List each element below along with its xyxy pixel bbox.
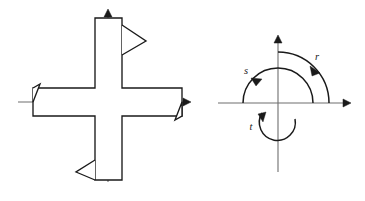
arc-label-s: s — [244, 65, 248, 76]
arc-r-curve — [278, 52, 329, 103]
arc-t: t — [250, 112, 296, 140]
arc-label-r: r — [315, 51, 320, 62]
right-panel-axes — [218, 35, 351, 172]
arc-s-arrowhead — [251, 78, 262, 86]
left-vertical-axis-arrowhead — [104, 9, 112, 17]
top-arm-barb — [118, 20, 152, 60]
left-panel-hatched-cross — [18, 9, 195, 190]
bottom-arm-barb-outline — [76, 160, 95, 180]
cross-section-outline — [33, 18, 182, 180]
right-horizontal-axis-arrowhead — [343, 99, 351, 107]
technical-figure: r s t — [0, 0, 365, 201]
arc-t-curve — [259, 113, 295, 140]
top-arm-barb-outline — [122, 25, 146, 55]
figure-container: r s t — [0, 0, 365, 201]
arc-r: r — [278, 51, 329, 103]
left-horizontal-axis-arrowhead — [183, 98, 191, 106]
arc-label-t: t — [250, 121, 254, 132]
right-vertical-axis-arrowhead — [274, 35, 282, 43]
right-panel-arc-diagram: r s t — [218, 35, 351, 172]
